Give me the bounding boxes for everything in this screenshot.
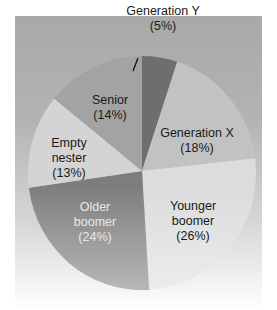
label-generation-x: Generation X (18%) [160,126,234,156]
label-generation-y: Generation Y (5%) [126,4,199,34]
label-older-boomer: Older boomer (24%) [74,200,116,245]
label-senior: Senior (14%) [92,93,128,123]
label-empty-nester: Empty nester (13%) [51,136,86,181]
pie-chart [0,0,277,310]
label-younger-boomer: Younger boomer (26%) [170,199,216,244]
